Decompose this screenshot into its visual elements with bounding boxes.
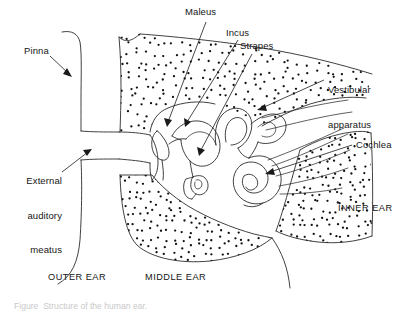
- stipple-dot: [244, 211, 246, 213]
- stipple-dot: [210, 188, 212, 190]
- stipple-dot: [142, 183, 144, 185]
- stipple-dot: [183, 110, 185, 112]
- stipple-dot: [143, 97, 145, 99]
- stipple-dot: [233, 78, 235, 80]
- stipple-dot: [307, 132, 309, 134]
- stipple-dot: [247, 91, 249, 93]
- stipple-dot: [198, 107, 200, 109]
- stipple-dot: [221, 52, 223, 54]
- stipple-dot: [254, 60, 256, 62]
- stipple-dot: [276, 187, 278, 189]
- stipple-dot: [150, 239, 152, 241]
- stipple-dot: [302, 200, 304, 202]
- stipple-dot: [323, 123, 325, 125]
- stipple-dot: [145, 207, 147, 209]
- stipple-dot: [303, 207, 305, 209]
- stipple-dot: [298, 204, 300, 206]
- stipple-dot: [293, 223, 295, 225]
- stipple-dot: [305, 99, 307, 101]
- stipple-dot: [342, 32, 344, 34]
- stipple-dot: [364, 194, 366, 196]
- stipple-dot: [117, 232, 119, 234]
- stipple-dot: [311, 54, 313, 56]
- stipple-dot: [277, 212, 279, 214]
- stipple-dot: [170, 201, 172, 203]
- stapes-arch: [191, 176, 208, 195]
- stipple-dot: [342, 227, 344, 229]
- stipple-dot: [349, 159, 351, 161]
- stipple-dot: [140, 197, 142, 199]
- stipple-dot: [318, 94, 320, 96]
- stipple-dot: [251, 98, 253, 100]
- stipple-dot: [301, 219, 303, 221]
- stipple-dot: [229, 262, 231, 264]
- stipple-dot: [153, 67, 155, 69]
- label-stapes: Strapes: [240, 40, 273, 52]
- stipple-dot: [283, 85, 285, 87]
- stipple-dot: [251, 259, 253, 261]
- stipple-dot: [277, 92, 279, 94]
- stipple-dot: [284, 42, 286, 44]
- stipple-dot: [304, 236, 306, 238]
- stipple-dot: [181, 60, 183, 62]
- stipple-dot: [170, 122, 172, 124]
- stipple-dot: [229, 184, 231, 186]
- stipple-dot: [315, 45, 317, 47]
- stipple-dot: [321, 217, 323, 219]
- stipple-dot: [190, 77, 192, 79]
- stipple-dot: [349, 196, 351, 198]
- stipple-dot: [252, 215, 254, 217]
- stipple-dot: [129, 191, 131, 193]
- stipple-dot: [260, 185, 262, 187]
- stipple-dot: [187, 172, 189, 174]
- stipple-dot: [236, 223, 238, 225]
- stipple-dot: [226, 121, 228, 123]
- stipple-dot: [226, 105, 228, 107]
- stipple-dot: [212, 133, 214, 135]
- stipple-dot: [332, 45, 334, 47]
- stipple-dot: [210, 120, 212, 122]
- stipple-dot: [166, 199, 168, 201]
- stipple-dot: [364, 165, 366, 167]
- stipple-dot: [166, 181, 168, 183]
- stipple-dot: [139, 213, 141, 215]
- stipple-dot: [207, 206, 209, 208]
- stipple-dot: [199, 181, 201, 183]
- stipple-dot: [127, 41, 129, 43]
- stipple-dot: [374, 51, 376, 53]
- stipple-dot: [323, 37, 325, 39]
- stipple-dot: [129, 134, 131, 136]
- stipple-dot: [213, 69, 215, 71]
- stipple-dot: [320, 50, 322, 52]
- stipple-dot: [219, 211, 221, 213]
- stipple-dot: [136, 229, 138, 231]
- stipple-dot: [292, 106, 294, 108]
- cochlea-inner-turn: [244, 174, 258, 190]
- stipple-dot: [290, 213, 292, 215]
- stipple-dot: [128, 76, 130, 78]
- stipple-dot: [198, 222, 200, 224]
- stipple-dot: [214, 209, 216, 211]
- stipple-dot: [205, 253, 207, 255]
- stipple-dot: [362, 179, 364, 181]
- label-pinna: Pinna: [24, 45, 49, 57]
- stipple-dot: [202, 77, 204, 79]
- stipple-dot: [295, 88, 297, 90]
- stipple-dot: [228, 70, 230, 72]
- stipple-dot: [149, 227, 151, 229]
- stipple-dot: [130, 125, 132, 127]
- stipple-dot: [310, 89, 312, 91]
- stipple-dot: [329, 233, 331, 235]
- stipple-dot: [284, 204, 286, 206]
- stipple-dot: [124, 205, 126, 207]
- stipple-dot: [340, 49, 342, 51]
- stipple-dot: [313, 233, 315, 235]
- stipple-dot: [173, 75, 175, 77]
- stipple-dot: [179, 211, 181, 213]
- stipple-dot: [198, 172, 200, 174]
- stipple-dot: [170, 175, 172, 177]
- stipple-dot: [224, 94, 226, 96]
- stipple-dot: [261, 54, 263, 56]
- upper-bone-left-edge: [119, 37, 121, 132]
- stipple-dot: [354, 168, 356, 170]
